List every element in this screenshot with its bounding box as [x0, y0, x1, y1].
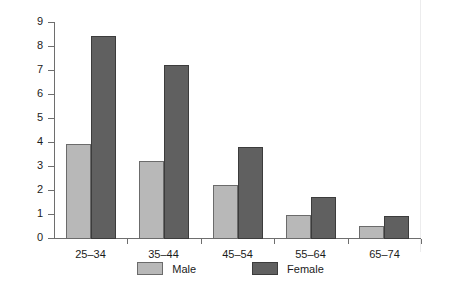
y-axis-tick: [48, 142, 55, 143]
x-axis-label: 35–44: [127, 248, 200, 261]
bar-female-25-34: [91, 36, 116, 239]
bar-female-35-44: [164, 65, 189, 239]
bar-female-65-74: [384, 216, 409, 239]
y-axis-tick: [48, 118, 55, 119]
x-axis-label: 45–54: [201, 248, 274, 261]
y-axis-tick-label: 8: [21, 40, 43, 51]
y-axis-tick: [48, 166, 55, 167]
y-axis-line: [54, 22, 55, 239]
x-axis-tick: [348, 239, 349, 244]
y-axis-tick: [48, 22, 55, 23]
x-axis-tick: [421, 239, 422, 244]
bar-male-45-54: [213, 185, 238, 239]
y-axis-tick: [48, 238, 55, 239]
bar-male-55-64: [286, 215, 311, 239]
x-axis-tick: [274, 239, 275, 244]
x-axis-tick: [201, 239, 202, 244]
x-axis-label: 65–74: [348, 248, 421, 261]
y-axis-tick-label: 3: [21, 160, 43, 171]
legend-swatch-female-icon: [252, 262, 278, 275]
bar-male-65-74: [359, 226, 384, 239]
x-axis-label: 55–64: [274, 248, 347, 261]
y-axis-tick: [48, 94, 55, 95]
bar-female-55-64: [311, 197, 336, 239]
x-axis-tick: [127, 239, 128, 244]
legend-label: Male: [172, 263, 196, 275]
bar-male-25-34: [66, 144, 91, 239]
y-axis-tick-label: 1: [21, 208, 43, 219]
bar-chart: 0123456789 25–3435–4445–5455–6465–74 Mal…: [0, 0, 461, 296]
y-axis-tick-label: 4: [21, 136, 43, 147]
legend-label: Female: [287, 263, 324, 275]
y-axis-tick-label: 6: [21, 88, 43, 99]
legend-item-male[interactable]: Male: [137, 262, 196, 275]
y-axis-tick: [48, 70, 55, 71]
legend-swatch-male-icon: [137, 262, 163, 275]
y-axis-tick-label: 9: [21, 16, 43, 27]
y-axis-tick-label: 0: [21, 232, 43, 243]
y-axis-tick: [48, 46, 55, 47]
chart-legend: MaleFemale: [0, 262, 461, 275]
y-axis-tick-label: 5: [21, 112, 43, 123]
bar-female-45-54: [238, 147, 263, 239]
y-axis-tick: [48, 214, 55, 215]
bar-male-35-44: [139, 161, 164, 239]
legend-item-female[interactable]: Female: [252, 262, 324, 275]
plot-right-border: [420, 0, 421, 252]
y-axis-tick-label: 7: [21, 64, 43, 75]
y-axis-tick-label: 2: [21, 184, 43, 195]
y-axis-tick: [48, 190, 55, 191]
x-axis-label: 25–34: [54, 248, 127, 261]
